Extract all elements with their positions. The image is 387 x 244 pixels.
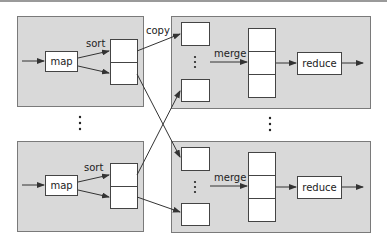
reduce-input-bottom-1: [182, 148, 210, 171]
map-label-bottom: map: [50, 180, 72, 191]
map-label-top: map: [50, 56, 72, 67]
mapreduce-diagram: map sort map sort copy merge red: [0, 0, 387, 244]
reduce-input-bottom-2: [182, 204, 210, 226]
reduce-label-top: reduce: [302, 58, 336, 69]
partition-stack-top: [111, 40, 138, 85]
merge-label-bottom: merge: [214, 172, 246, 183]
reduce-input-top-1: [182, 23, 210, 46]
merged-stack-bottom: [249, 153, 276, 222]
ellipsis-inputs-bottom: [194, 181, 196, 193]
sort-label-top: sort: [86, 38, 105, 49]
merge-label-top: merge: [214, 48, 246, 59]
reduce-box-bottom: reduce: [298, 177, 342, 199]
reduce-input-top-2: [182, 80, 210, 102]
reduce-label-bottom: reduce: [302, 182, 336, 193]
sort-label-bottom: sort: [84, 162, 103, 173]
ellipsis-reduce-tasks: [269, 117, 271, 131]
map-box-top: map: [46, 52, 78, 72]
map-box-bottom: map: [46, 176, 78, 196]
merged-stack-top: [249, 29, 276, 98]
ellipsis-map-tasks: [79, 116, 81, 130]
partition-stack-bottom: [111, 164, 138, 209]
reduce-box-top: reduce: [298, 53, 342, 75]
copy-label: copy: [146, 25, 170, 36]
ellipsis-inputs-top: [194, 56, 196, 68]
